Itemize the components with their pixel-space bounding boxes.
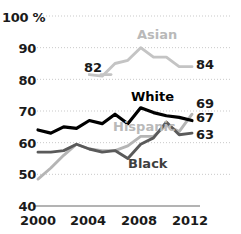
x-tick-label: 2000 bbox=[14, 213, 62, 228]
x-tick-label: 2004 bbox=[64, 213, 112, 228]
series-label-black: Black bbox=[128, 156, 168, 171]
x-tick-label: 2008 bbox=[115, 213, 163, 228]
y-tick-label: 80 bbox=[2, 73, 36, 88]
series-label-hispanic: Hispanic bbox=[113, 119, 176, 134]
value-label-63: 63 bbox=[196, 127, 214, 142]
series-label-asian: Asian bbox=[137, 27, 177, 42]
y-tick-label: 100 % bbox=[2, 10, 36, 25]
y-tick-label: 70 bbox=[2, 104, 36, 119]
series-label-white: White bbox=[131, 89, 174, 104]
y-tick-label: 60 bbox=[2, 136, 36, 151]
value-label-69: 69 bbox=[196, 96, 214, 111]
y-tick-label: 50 bbox=[2, 167, 36, 182]
y-tick-label: 40 bbox=[2, 199, 36, 214]
line-chart: 100 %908070605040 2000200420082012 82846… bbox=[0, 0, 241, 234]
value-label-82: 82 bbox=[84, 60, 102, 75]
y-tick-label: 90 bbox=[2, 41, 36, 56]
value-label-67: 67 bbox=[196, 110, 214, 125]
value-label-84: 84 bbox=[196, 57, 214, 72]
x-tick-label: 2012 bbox=[166, 213, 214, 228]
series-line-asian bbox=[89, 48, 192, 77]
